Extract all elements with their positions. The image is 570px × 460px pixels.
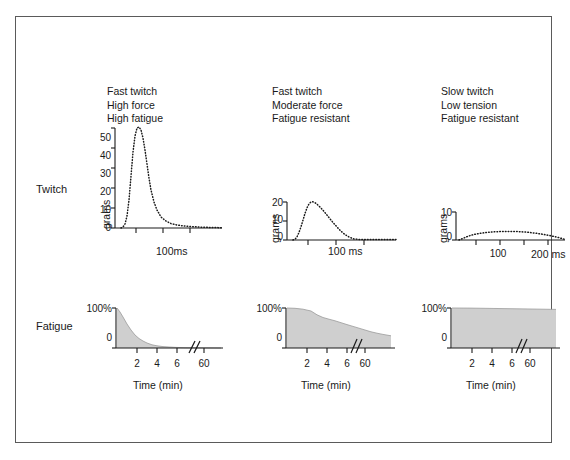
caption-fast-fatigue-resistant: Fast twitch Moderate force Fatigue resis… [272,85,350,126]
x-axis-label: 200 ms [531,248,565,260]
twitch-curve [459,231,565,240]
fatigue-area [117,308,221,348]
y-tick-label: 10 [430,207,452,218]
axis-break-mark [194,341,200,353]
axis-break-mark [189,341,195,353]
fatigue-area-plot-3 [450,307,562,355]
y-tick-label: 100% [413,303,447,314]
x-axis-label: Time (min) [301,379,351,391]
y-tick-label: 100% [248,303,282,314]
y-tick-label: 0 [261,231,283,242]
y-tick-label: 10 [89,204,111,215]
caption-line: Low tension [441,99,519,113]
y-tick-label: 0 [78,332,112,343]
fatigue-area [287,308,391,348]
y-tick-label: 50 [89,132,111,143]
x-tick-label: 60 [190,358,218,369]
y-tick-label: 0 [430,231,452,242]
y-tick-label: 0 [413,332,447,343]
y-tick-label: 0 [89,222,111,233]
caption-line: High fatigue [107,112,163,126]
caption-fast-fatigable: Fast twitch High force High fatigue [107,85,163,126]
twitch-curve [121,127,222,228]
caption-line: Slow twitch [441,85,519,99]
fatigue-area-plot-1 [115,307,225,355]
caption-slow-twitch: Slow twitch Low tension Fatigue resistan… [441,85,519,126]
caption-line: High force [107,99,163,113]
fatigue-area [452,308,556,348]
caption-line: Fast twitch [107,85,163,99]
caption-line: Fatigue resistant [441,112,519,126]
y-tick-label: 40 [89,150,111,161]
x-axis-label: 100 ms [328,245,362,257]
twitch-curve [293,202,396,240]
fatigue-area-plot-2 [285,307,397,355]
y-tick-label: 20 [89,186,111,197]
row-label-fatigue: Fatigue [36,320,73,332]
x-tick-label: 60 [351,358,379,369]
y-tick-label: 20 [261,197,283,208]
caption-line: Fast twitch [272,85,350,99]
figure-frame: Twitch Fatigue Fast twitch High force Hi… [15,16,552,443]
x-axis-label: 100ms [156,245,188,257]
twitch-curve-plot-1 [114,127,224,239]
y-tick-label: 0 [248,332,282,343]
x-axis-label: Time (min) [466,379,516,391]
x-tick-label: 100 [480,248,516,259]
caption-line: Fatigue resistant [272,112,350,126]
x-axis-label: Time (min) [133,379,183,391]
twitch-curve-plot-3 [455,211,567,251]
y-tick-label: 10 [261,214,283,225]
row-label-twitch: Twitch [36,183,67,195]
y-tick-label: 30 [89,168,111,179]
caption-line: Moderate force [272,99,350,113]
x-tick-label: 6 [163,358,191,369]
y-tick-label: 100% [78,303,112,314]
x-tick-label: 60 [516,358,544,369]
twitch-curve-plot-2 [286,201,398,249]
